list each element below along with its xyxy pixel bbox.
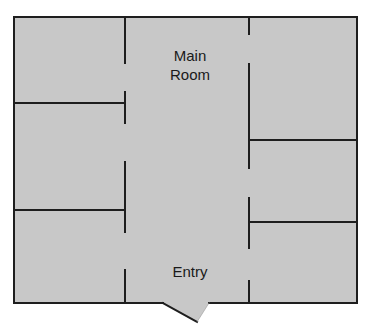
entry-label: Entry bbox=[150, 262, 230, 281]
main-room-label-line1: Main bbox=[150, 46, 230, 65]
main-room-label-line2: Room bbox=[150, 65, 230, 84]
main-room-label: Main Room bbox=[150, 46, 230, 84]
